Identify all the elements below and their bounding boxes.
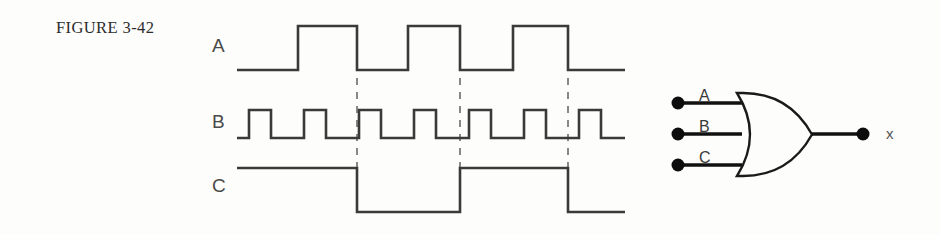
input-terminal-a bbox=[672, 97, 685, 110]
or-gate-symbol bbox=[672, 93, 870, 176]
input-terminal-b bbox=[672, 128, 685, 141]
figure-container: FIGURE 3-42 A B C A B C x bbox=[0, 0, 940, 235]
input-terminal-c bbox=[672, 159, 685, 172]
figure-artwork bbox=[0, 0, 940, 235]
waveform-a bbox=[237, 26, 625, 70]
waveform-b bbox=[237, 110, 625, 138]
waveform-c bbox=[237, 168, 625, 212]
or-gate-body bbox=[737, 93, 812, 176]
output-terminal-x bbox=[857, 128, 870, 141]
